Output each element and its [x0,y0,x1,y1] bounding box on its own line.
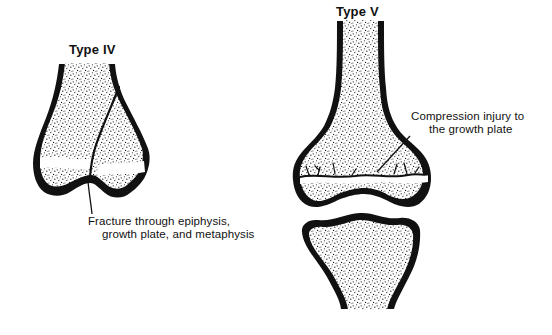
type4-caption-line2: growth plate, and metaphysis [102,228,254,240]
type4-leader-line [88,181,92,214]
salter-harris-figure: Type IV Type V Fracture through epiphysi… [0,0,552,335]
type4-title: Type IV [69,42,116,57]
type5-caption-line2: the growth plate [429,123,512,135]
type4-caption-line1: Fracture through epiphysis, [88,215,230,227]
type5-caption-line1: Compression injury to [411,110,524,122]
type4-growth-plate-left [40,157,92,169]
type4-bone-illustration [33,63,150,214]
type5-bone-illustration [293,20,431,310]
type5-title: Type V [336,4,379,19]
